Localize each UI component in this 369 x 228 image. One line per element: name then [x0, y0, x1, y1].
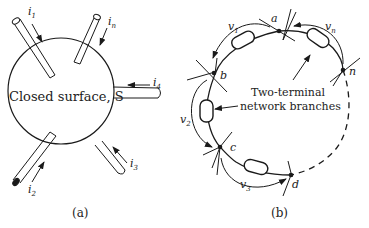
caption-b: (b) — [271, 206, 288, 220]
branch-cd — [243, 158, 269, 176]
figure-a: Closed surface, S i1 in i4 i3 i2 (a) — [8, 5, 161, 220]
node-c — [203, 132, 232, 175]
label-node-a: a — [271, 12, 278, 25]
figure-b: a b c d n v1 v2 v3 vn Two-terminal netwo… — [180, 9, 360, 220]
label-i3: i3 — [130, 157, 139, 172]
label-node-c: c — [230, 141, 236, 154]
wire-i1 — [11, 17, 55, 78]
branch-label-line1: Two-terminal — [251, 86, 325, 99]
pointer-branch-bc — [215, 106, 238, 109]
label-i4: i4 — [153, 76, 161, 91]
arrow-i1 — [32, 24, 42, 42]
label-v1: v1 — [228, 20, 239, 35]
wire-i2 — [12, 132, 56, 187]
caption-a: (a) — [72, 206, 89, 220]
surface-label: Closed surface, S — [9, 89, 124, 104]
label-node-b: b — [220, 69, 227, 82]
label-node-n: n — [349, 65, 356, 78]
wire-i3 — [95, 141, 127, 174]
branch-label-line2: network branches — [240, 100, 341, 113]
wire-in — [74, 13, 107, 64]
arrow-in — [100, 28, 107, 45]
kirchhoff-figure: Closed surface, S i1 in i4 i3 i2 (a) — [0, 0, 369, 228]
label-i2: i2 — [28, 183, 37, 198]
label-in: in — [108, 15, 117, 30]
label-vn: vn — [325, 20, 336, 35]
label-v3: v3 — [240, 178, 251, 193]
label-v2: v2 — [180, 113, 191, 128]
arrow-i3 — [113, 147, 127, 163]
pointer-branch-an — [293, 55, 310, 80]
branch-bc — [200, 100, 213, 122]
label-node-d: d — [292, 178, 299, 191]
label-i1: i1 — [28, 5, 36, 20]
